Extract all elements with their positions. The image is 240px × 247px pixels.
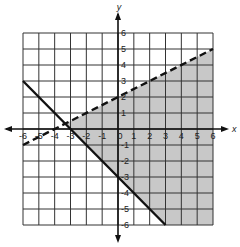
x-tick-label: 6 xyxy=(210,131,215,141)
y-axis-up-arrow-icon xyxy=(115,12,121,20)
y-tick-label: -6 xyxy=(121,220,129,230)
x-axis-left-arrow-icon xyxy=(4,126,12,132)
x-tick-label: 1 xyxy=(131,131,136,141)
x-tick-label: -6 xyxy=(19,131,27,141)
x-tick-label: 5 xyxy=(195,131,200,141)
y-tick-label: 5 xyxy=(121,44,126,54)
x-axis-label: x xyxy=(231,124,237,134)
y-tick-label: -1 xyxy=(121,140,129,150)
x-axis-right-arrow-icon xyxy=(221,126,229,132)
x-tick-label: -2 xyxy=(82,131,90,141)
x-tick-label: -3 xyxy=(66,131,74,141)
y-tick-label: 3 xyxy=(121,76,126,86)
y-tick-label: -4 xyxy=(121,188,129,198)
x-tick-label: -5 xyxy=(35,131,43,141)
y-axis-down-arrow-icon xyxy=(115,235,121,243)
y-tick-label: -2 xyxy=(121,156,129,166)
inequality-graph: -6-5-4-3-2-10123456654321-1-2-3-4-5-6xy xyxy=(0,0,240,247)
x-tick-label: 2 xyxy=(147,131,152,141)
y-tick-label: 4 xyxy=(121,60,126,70)
x-tick-label: 3 xyxy=(163,131,168,141)
y-tick-label: 1 xyxy=(121,108,126,118)
x-tick-label: -4 xyxy=(51,131,59,141)
y-tick-label: -3 xyxy=(121,172,129,182)
y-axis-label: y xyxy=(116,2,122,12)
x-tick-label: -1 xyxy=(98,131,106,141)
y-tick-label: 6 xyxy=(121,28,126,38)
y-tick-label: -5 xyxy=(121,204,129,214)
x-tick-label: 4 xyxy=(179,131,184,141)
y-tick-label: 2 xyxy=(121,92,126,102)
